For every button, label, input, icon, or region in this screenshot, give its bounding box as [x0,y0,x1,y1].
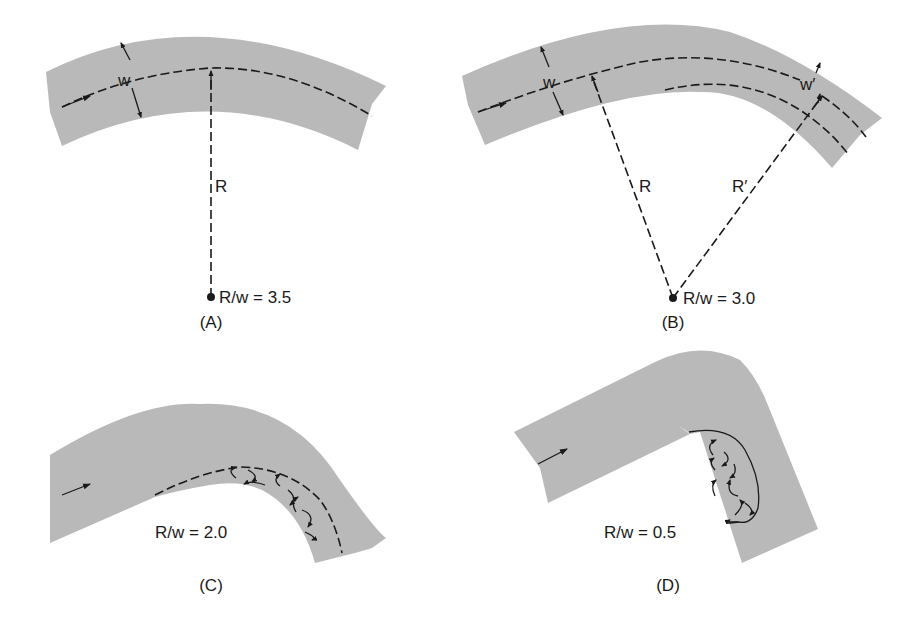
panel-c: R/w = 2.0 (C) [50,404,386,595]
ratio-label-d: R/w = 0.5 [604,523,676,542]
width-label-b: w [542,73,556,92]
caption-d: (D) [656,576,680,595]
radius-prime-line-b [673,96,822,298]
ratio-label-a: R/w = 3.5 [219,288,291,307]
radius-prime-label-b: R′ [732,177,747,196]
panel-a: w R R/w = 3.5 (A) [46,37,386,332]
center-point-icon [207,293,215,301]
channel-a [46,37,386,150]
panel-b: w w′ R R′ R/w = 3.0 (B) [462,25,882,332]
center-point-icon [669,294,677,302]
panel-d: R/w = 0.5 (D) [514,350,818,595]
width-prime-label-b: w′ [799,75,815,94]
ratio-label-b: R/w = 3.0 [683,289,755,308]
caption-a: (A) [200,313,223,332]
caption-b: (B) [662,313,685,332]
channel-bend-diagram: w R R/w = 3.5 (A) w w′ R R′ R/w = 3.0 (B… [0,0,922,638]
caption-c: (C) [199,576,223,595]
radius-label-a: R [215,177,227,196]
width-prime-arrow-top-icon [816,63,820,73]
radius-line-b [592,77,673,298]
eddy-icon [713,480,716,496]
width-label-a: w [117,71,131,90]
ratio-label-c: R/w = 2.0 [155,523,227,542]
radius-label-b: R [639,177,651,196]
